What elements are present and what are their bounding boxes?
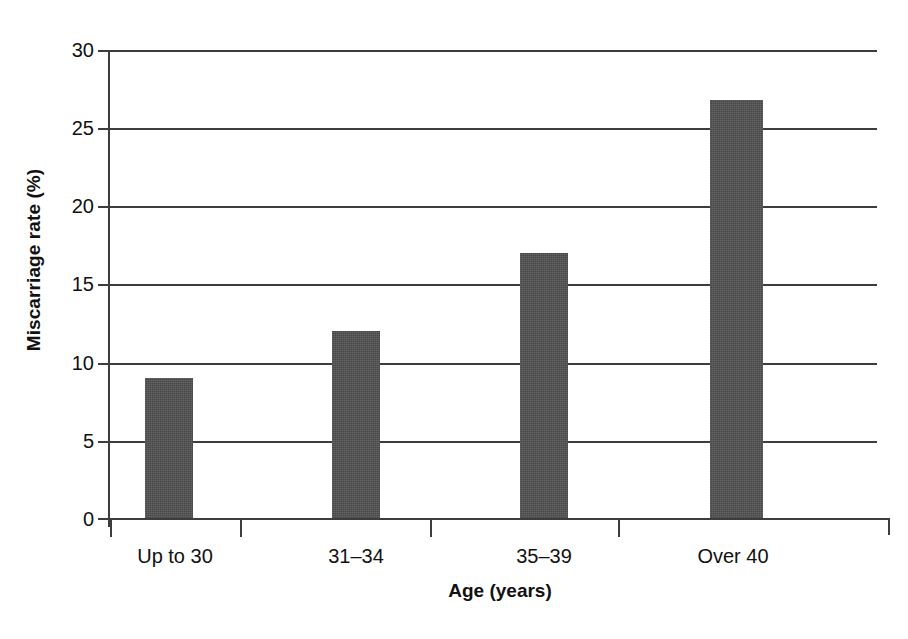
bar-35-39 <box>520 253 568 519</box>
x-tick-label-35-39: 35–39 <box>484 545 604 567</box>
y-tick-label-10: 10 <box>50 353 94 373</box>
bar-31-34 <box>332 331 380 519</box>
x-tick-label-31-34: 31–34 <box>296 545 416 567</box>
x-axis-title: Age (years) <box>110 580 890 602</box>
x-tick-label-over-40: Over 40 <box>668 545 798 567</box>
x-tick-mark-end <box>888 518 890 535</box>
y-tick-label-25: 25 <box>50 118 94 138</box>
y-tick-label-0: 0 <box>50 509 94 529</box>
y-axis-tick-labels: 30 25 20 15 10 5 0 <box>50 0 94 639</box>
y-axis-title: Miscarriage rate (%) <box>14 0 54 520</box>
x-tick-mark-2 <box>430 520 432 537</box>
bar-chart-figure: Miscarriage rate (%) 30 25 20 15 10 5 0 <box>0 0 908 639</box>
plot-area <box>110 50 877 519</box>
gridline-30 <box>110 50 877 52</box>
y-tick-label-20: 20 <box>50 196 94 216</box>
y-tick-label-30: 30 <box>50 40 94 60</box>
bar-over-40 <box>710 100 763 519</box>
bar-up-to-30 <box>145 378 193 519</box>
y-tick-label-15: 15 <box>50 274 94 294</box>
x-tick-mark-1 <box>240 520 242 537</box>
x-tick-mark-3 <box>618 520 620 537</box>
x-tick-mark-start <box>110 520 112 537</box>
x-tick-label-up-to-30: Up to 30 <box>105 545 245 567</box>
y-tick-label-5: 5 <box>50 431 94 451</box>
x-axis-line <box>110 518 890 520</box>
